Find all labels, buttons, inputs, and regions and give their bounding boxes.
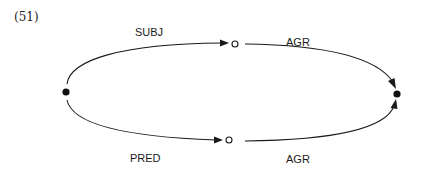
arrowhead-pred bbox=[214, 137, 223, 144]
edge-pred bbox=[67, 100, 216, 140]
edge-agr-bottom bbox=[245, 106, 394, 141]
node-root bbox=[62, 88, 69, 95]
node-pred bbox=[226, 137, 232, 143]
edge-label-subj: SUBJ bbox=[135, 26, 163, 38]
edge-agr-top bbox=[245, 44, 393, 82]
edge-subj bbox=[67, 43, 222, 84]
node-subj bbox=[232, 41, 238, 47]
feature-graph-diagram: (51) SUBJ AGR PRED AGR bbox=[0, 0, 422, 173]
example-number: (51) bbox=[14, 10, 39, 24]
edge-label-agr-top: AGR bbox=[286, 36, 310, 48]
node-target bbox=[393, 90, 400, 97]
arrowhead-agr-bottom bbox=[391, 99, 398, 109]
edge-label-pred: PRED bbox=[130, 152, 161, 164]
arrowhead-agr-top bbox=[388, 78, 396, 89]
arrowhead-subj bbox=[220, 40, 229, 47]
edge-label-agr-bottom: AGR bbox=[286, 153, 310, 165]
